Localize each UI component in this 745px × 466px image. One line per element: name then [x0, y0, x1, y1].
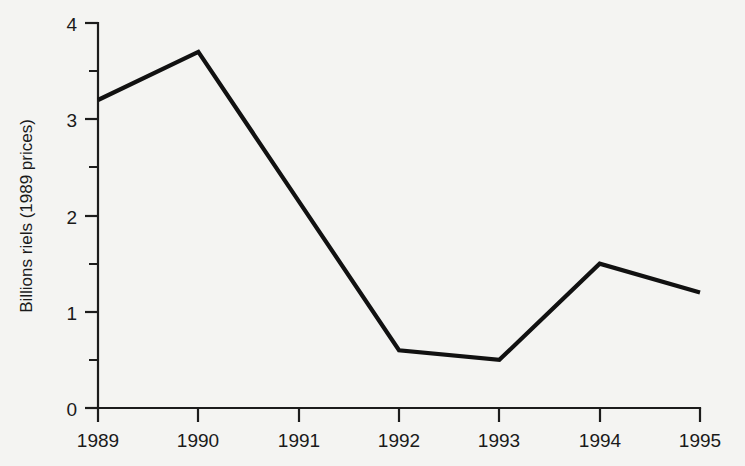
- x-tick-label-1995: 1995: [679, 430, 721, 451]
- x-tick-label-1991: 1991: [278, 430, 320, 451]
- x-tick-label-1989: 1989: [77, 430, 119, 451]
- y-axis-major-ticks: [85, 23, 98, 408]
- data-series-line: [98, 52, 700, 360]
- y-axis-title-group: Billions riels (1989 prices): [17, 119, 36, 313]
- y-tick-label-4: 4: [66, 14, 77, 35]
- x-axis-ticks: [98, 408, 700, 422]
- y-axis-tick-labels: 4 3 2 1 0: [66, 14, 77, 420]
- x-tick-label-1992: 1992: [378, 430, 420, 451]
- y-tick-label-3: 3: [66, 110, 77, 131]
- line-chart-figure: Billions riels (1989 prices) 4 3 2: [0, 0, 745, 466]
- x-axis-tick-labels: 1989 1990 1991 1992 1993 1994 1995: [77, 430, 721, 451]
- x-tick-label-1990: 1990: [177, 430, 219, 451]
- y-tick-label-1: 1: [66, 303, 77, 324]
- x-tick-label-1993: 1993: [478, 430, 520, 451]
- y-tick-label-0: 0: [66, 399, 77, 420]
- y-tick-label-2: 2: [66, 207, 77, 228]
- y-axis-title: Billions riels (1989 prices): [17, 119, 36, 313]
- x-tick-label-1994: 1994: [579, 430, 622, 451]
- chart-canvas: Billions riels (1989 prices) 4 3 2: [0, 0, 745, 466]
